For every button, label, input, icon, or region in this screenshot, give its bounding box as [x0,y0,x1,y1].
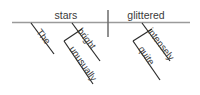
sentence-diagram: stars glittered The bright unusually int… [0,0,200,95]
modifier-word-quite: quite [136,44,157,67]
diagram-canvas: stars glittered The bright unusually int… [0,0,200,95]
modifier-word-the: The [34,27,53,47]
modifier-word-unusually: unusually [67,44,99,83]
predicate-word: glittered [127,9,165,21]
subject-word: stars [55,9,78,21]
